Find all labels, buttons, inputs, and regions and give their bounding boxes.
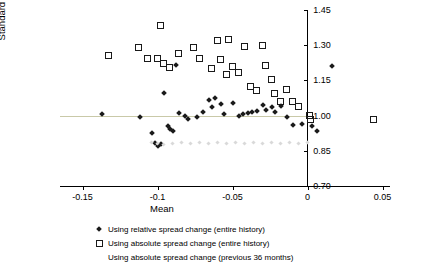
data-point [175,50,182,57]
x-tick-label: -0.1 [138,192,178,202]
data-point [217,56,224,63]
data-point [283,86,290,93]
y-axis-label: Standard Deviation [0,0,7,60]
data-point [307,116,314,123]
legend-item-absolute-entire: Using absolute spread change (entire his… [92,236,293,250]
chart-legend: Using relative spread change (entire his… [92,222,293,264]
data-point [295,103,302,110]
y-tick [304,151,308,152]
data-point [190,44,197,51]
data-point [262,62,269,69]
legend-item-relative-entire: Using relative spread change (entire his… [92,222,293,236]
data-point [241,43,248,50]
x-tick-label: -0.15 [63,192,103,202]
legend-label: Using absolute spread change (entire his… [106,239,269,248]
filled-diamond-icon [92,227,106,231]
y-tick-label: 1.15 [313,75,347,85]
y-tick [304,10,308,11]
data-point [370,116,377,123]
x-tick [233,186,234,190]
x-tick [83,186,84,190]
legend-item-absolute-36m: Using absolute spread change (previous 3… [92,250,293,264]
data-point [157,22,164,29]
y-tick-label: 0.70 [313,181,347,191]
data-point [166,64,173,71]
data-point [208,65,215,72]
y-tick [304,80,308,81]
data-point [214,37,221,44]
legend-label: Using relative spread change (entire his… [106,225,265,234]
data-point [196,55,203,62]
x-tick [158,186,159,190]
data-point [144,55,151,62]
data-point [223,71,230,78]
x-tick-label: 0 [288,192,328,202]
x-tick-label: -0.05 [213,192,253,202]
x-tick-label: 0.05 [363,192,403,202]
data-point [105,52,112,59]
data-point [271,90,278,97]
data-point [253,87,260,94]
legend-label: Using absolute spread change (previous 3… [106,253,293,262]
y-tick [304,45,308,46]
data-point [225,36,232,43]
x-axis-label: Mean [150,203,174,214]
data-point [259,42,266,49]
y-tick-label: 0.85 [313,146,347,156]
data-point [235,69,242,76]
data-point [268,76,275,83]
open-square-icon [92,240,106,247]
y-tick-label: 1.30 [313,40,347,50]
y-tick-label: 1.45 [313,5,347,15]
x-tick [383,186,384,190]
y-tick [304,186,308,187]
y-tick-label: 1.00 [313,111,347,121]
chart-root: Standard Deviation Mean -0.15-0.1-0.0500… [0,0,448,268]
data-point [277,98,284,105]
data-point [135,44,142,51]
